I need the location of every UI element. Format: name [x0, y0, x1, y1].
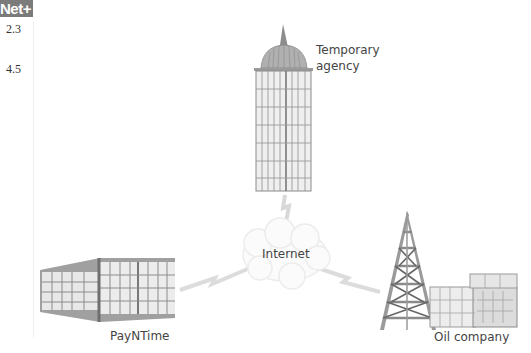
skyscraper-icon [254, 24, 313, 191]
temporary-agency-label-line1: Temporary [316, 42, 380, 58]
network-diagram [0, 0, 531, 353]
office-building-icon [40, 258, 175, 322]
link-payntime-internet [180, 268, 250, 290]
oil-company-label: Oil company [434, 329, 509, 345]
temporary-agency-label: Temporary agency [316, 42, 380, 74]
payntime-label: PayNTime [110, 328, 170, 344]
internet-label: Internet [262, 246, 310, 262]
temporary-agency-label-line2: agency [316, 58, 380, 74]
link-internet-oil [318, 268, 380, 292]
refinery-building-icon [430, 274, 517, 327]
oil-derrick-icon [380, 211, 436, 330]
